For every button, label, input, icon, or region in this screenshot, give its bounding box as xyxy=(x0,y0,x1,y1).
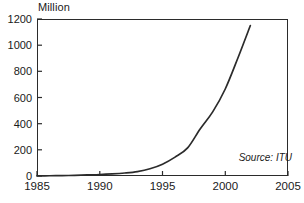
y-tick-label-400: 400 xyxy=(0,118,32,130)
y-tick-label-800: 800 xyxy=(0,65,32,77)
x-tick-label-1985: 1985 xyxy=(12,180,62,192)
x-tick-label-2000: 2000 xyxy=(200,180,250,192)
x-tick-label-2005: 2005 xyxy=(263,180,304,192)
data-series-line xyxy=(37,26,250,176)
source-annotation: Source: ITU xyxy=(239,152,292,163)
y-axis-tick-marks xyxy=(37,19,42,176)
chart-data-layer xyxy=(0,0,304,203)
y-tick-label-1000: 1000 xyxy=(0,39,32,51)
x-tick-label-1995: 1995 xyxy=(138,180,188,192)
x-tick-label-1990: 1990 xyxy=(75,180,125,192)
chart-container: Million 1200 1000 800 600 400 200 0 1985… xyxy=(0,0,304,203)
y-tick-label-1200: 1200 xyxy=(0,13,32,25)
y-tick-label-600: 600 xyxy=(0,92,32,104)
y-tick-label-200: 200 xyxy=(0,144,32,156)
